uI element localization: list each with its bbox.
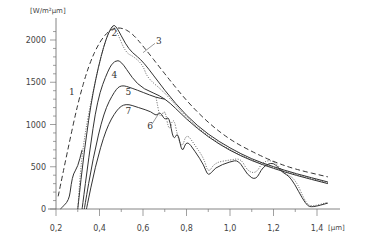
x-tick-label: 1,4 [311,224,324,233]
x-tick-label: 0,2 [50,224,63,233]
y-tick-label: 2000 [26,36,46,45]
y-tick-label: 1500 [26,78,46,87]
x-ticks: 0,20,40,60,81,01,21,4 [50,209,324,233]
x-tick-label: 0,6 [137,224,150,233]
curve-label-5: 5 [126,87,132,97]
curve-5 [84,86,164,209]
curve-label-2: 2 [111,28,117,38]
curve-4 [82,61,328,209]
x-tick-label: 1,0 [224,224,237,233]
y-tick-label: 500 [31,163,46,172]
curve-label-1: 1 [69,87,75,97]
x-tick-label: 0,4 [93,224,106,233]
curve-label-3: 3 [156,36,162,46]
y-axis-unit-label: [W/m²µm] [30,7,66,15]
curve-label-4: 4 [111,70,117,80]
curve-label-6: 6 [147,121,153,131]
y-tick-label: 1000 [26,121,46,130]
x-tick-label: 0,8 [180,224,193,233]
y-ticks: 0500100015002000 [26,32,56,214]
y-tick-label: 0 [41,205,46,214]
curves [58,25,328,209]
spectral-irradiance-chart: 0500100015002000 0,20,40,60,81,01,21,4 [… [0,0,365,245]
x-tick-label: 1,2 [267,224,280,233]
curve-6 [156,97,328,205]
curve-labels: 1234567 [69,28,162,131]
curve-label-7: 7 [126,106,132,116]
curve-7 [86,105,327,209]
leader-line-6 [152,114,159,124]
x-axis-unit-label: [µm] [328,224,345,232]
curve-3 [78,27,328,209]
